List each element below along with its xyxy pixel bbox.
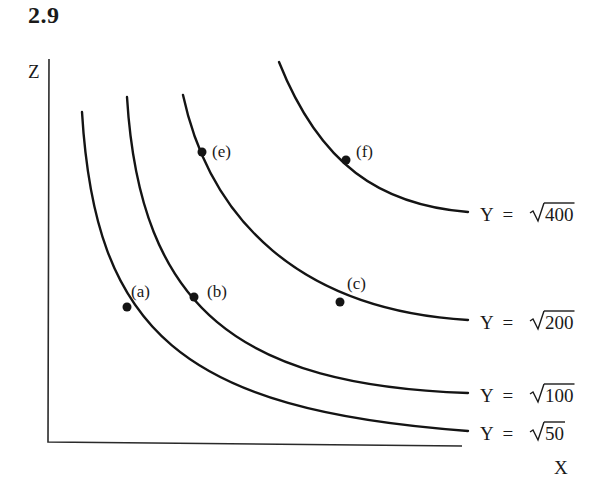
curve-labels: Y = 50Y = 100Y = 200Y = 400 <box>480 203 575 444</box>
point-marker-e <box>198 148 207 157</box>
point-label-b: (b) <box>207 282 227 301</box>
radical-sign-icon <box>530 203 544 221</box>
radical-sign-icon <box>530 422 544 440</box>
isoquant-curve-y100 <box>127 97 468 393</box>
point-marker-c <box>336 298 345 307</box>
x-axis-label: X <box>554 457 568 478</box>
radicand: 200 <box>545 312 574 333</box>
radicand: 100 <box>545 385 574 406</box>
point-marker-b <box>190 293 199 302</box>
curve-label-y50: Y = 50 <box>480 422 565 444</box>
point-label-a: (a) <box>131 282 150 301</box>
isoquant-curves <box>82 62 468 431</box>
point-label-f: (f) <box>356 142 373 161</box>
isoquant-curve-y50 <box>82 112 468 431</box>
equation-prefix: Y = <box>480 204 523 225</box>
curve-label-y100: Y = 100 <box>480 384 575 406</box>
point-marker-f <box>342 156 351 165</box>
point-label-e: (e) <box>212 142 231 161</box>
point-label-c: (c) <box>347 274 366 293</box>
radicand: 400 <box>545 204 574 225</box>
curve-label-y200: Y = 200 <box>480 311 575 333</box>
radicand: 50 <box>545 423 564 444</box>
isoquant-curve-y400 <box>279 62 468 212</box>
point-marker-a <box>123 303 132 312</box>
isoquant-diagram: Z X Y = 50Y = 100Y = 200Y = 400 (a)(b)(c… <box>0 0 608 485</box>
z-axis-label: Z <box>28 61 40 82</box>
equation-prefix: Y = <box>480 423 523 444</box>
equation-prefix: Y = <box>480 385 523 406</box>
equation-prefix: Y = <box>480 312 523 333</box>
curve-label-y400: Y = 400 <box>480 203 575 225</box>
radical-sign-icon <box>530 311 544 329</box>
radical-sign-icon <box>530 384 544 402</box>
